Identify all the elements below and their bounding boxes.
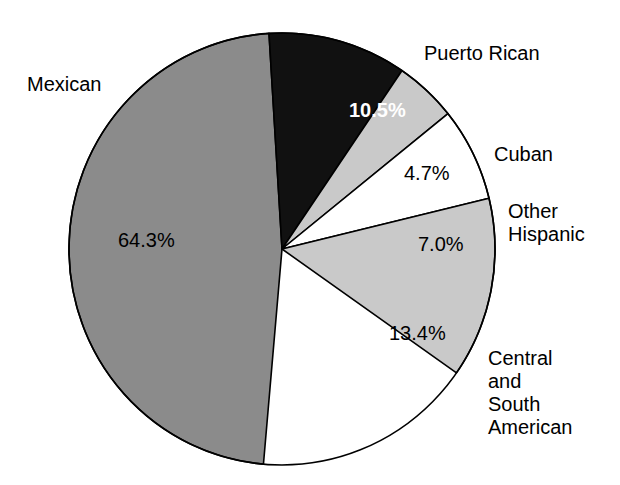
slice-value-other-hispanic: 7.0% — [418, 233, 464, 256]
slice-label-central-south-american-line4: American — [488, 416, 572, 438]
slice-label-central-south-american-line2: and — [488, 370, 521, 392]
slice-value-central-south-american: 13.4% — [389, 322, 446, 345]
slice-label-cuban: Cuban — [494, 143, 553, 166]
pie-slice-mexican[interactable] — [69, 33, 282, 464]
slice-label-other-hispanic: OtherHispanic — [508, 200, 585, 246]
slice-label-puerto-rican: Puerto Rican — [424, 42, 540, 65]
slice-value-puerto-rican: 10.5% — [349, 99, 406, 122]
slice-label-other-hispanic-line1: Other — [508, 200, 558, 222]
slice-label-central-south-american-line1: Central — [488, 347, 552, 369]
slice-value-cuban: 4.7% — [404, 162, 450, 185]
pie-chart-figure: Mexican Puerto Rican Cuban OtherHispanic… — [0, 0, 620, 485]
slice-label-other-hispanic-line2: Hispanic — [508, 223, 585, 245]
slice-label-mexican: Mexican — [27, 73, 101, 96]
slice-label-central-south-american: CentralandSouthAmerican — [488, 347, 572, 439]
slice-label-central-south-american-line3: South — [488, 393, 540, 415]
slice-value-mexican: 64.3% — [118, 229, 175, 252]
